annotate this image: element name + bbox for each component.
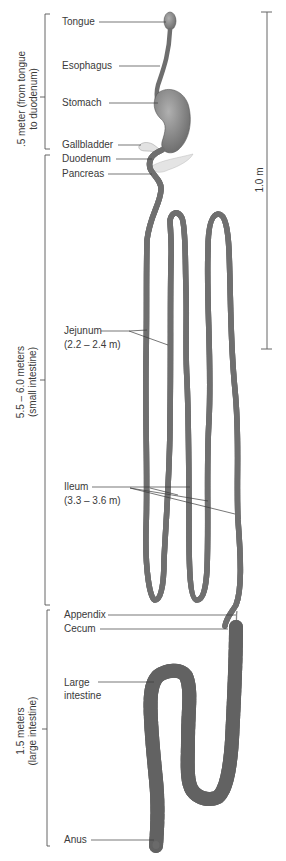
label-gallbladder: Gallbladder bbox=[62, 139, 113, 150]
label-anus: Anus bbox=[64, 834, 87, 845]
label-stomach: Stomach bbox=[62, 97, 101, 108]
pancreas-shape bbox=[152, 154, 193, 172]
stomach-shape bbox=[154, 89, 190, 152]
label-esophagus: Esophagus bbox=[62, 60, 112, 71]
tongue-shape bbox=[164, 12, 176, 30]
anatomy-diagram bbox=[0, 0, 286, 861]
bracket-upper bbox=[40, 14, 50, 149]
small-intestine-shape bbox=[146, 150, 241, 626]
label-large-intestine-1: Large bbox=[64, 677, 90, 688]
section-large-label: 1.5 meters (large intestine) bbox=[15, 671, 39, 791]
label-cecum: Cecum bbox=[64, 623, 96, 634]
label-duodenum: Duodenum bbox=[62, 153, 111, 164]
label-appendix: Appendix bbox=[64, 609, 106, 620]
section-small-label: 5.5 – 6.0 meters (small intestine) bbox=[15, 322, 39, 442]
label-ileum-length: (3.3 – 3.6 m) bbox=[64, 495, 121, 506]
label-large-intestine-2: intestine bbox=[64, 690, 101, 701]
section-upper-label: .5 meter (from tongue to duodenum) bbox=[16, 39, 40, 159]
label-jejunum-length: (2.2 – 2.4 m) bbox=[64, 339, 121, 350]
bracket-large bbox=[42, 610, 50, 846]
label-jejunum: Jejunum bbox=[64, 325, 102, 336]
bracket-small bbox=[40, 155, 50, 605]
label-pancreas: Pancreas bbox=[62, 168, 104, 179]
label-ileum: Ileum bbox=[64, 481, 88, 492]
label-tongue: Tongue bbox=[62, 16, 95, 27]
large-intestine-shape bbox=[151, 627, 236, 846]
scale-bar-label: 1.0 m bbox=[254, 160, 266, 200]
